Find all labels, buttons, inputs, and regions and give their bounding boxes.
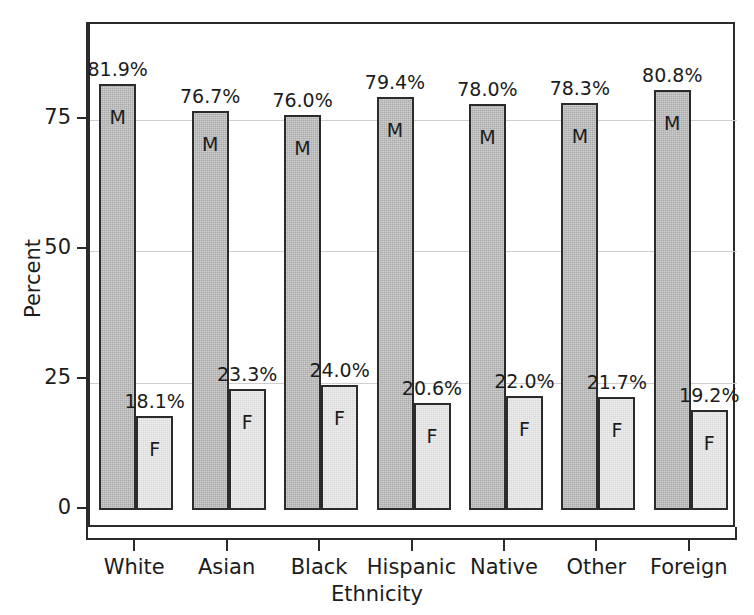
x-axis-tick-foreign <box>688 540 690 551</box>
bar-value-label-black-f: 24.0% <box>295 361 385 380</box>
bar-white-m: M <box>99 84 136 510</box>
bar-value-label-native-f: 22.0% <box>479 372 569 391</box>
x-axis-label-foreign: Foreign <box>629 555 749 579</box>
bar-black-f: F <box>321 385 358 510</box>
bar-native-m: M <box>469 104 506 510</box>
bar-series-letter: M <box>379 121 412 140</box>
bar-black-m: M <box>284 115 321 510</box>
x-axis-tick-white <box>133 540 135 551</box>
bar-value-label-black-m: 76.0% <box>258 91 348 110</box>
bar-series-letter: F <box>600 421 633 440</box>
y-axis-line <box>86 22 88 527</box>
bar-white-f: F <box>136 416 173 510</box>
bar-value-label-asian-m: 76.7% <box>165 87 255 106</box>
bar-value-label-hispanic-m: 79.4% <box>350 73 440 92</box>
y-axis-tick-label-0: 0 <box>11 497 71 518</box>
bar-series-letter: F <box>508 420 541 439</box>
x-axis-tick-black <box>318 540 320 551</box>
bar-chart: M81.9%F18.1%M76.7%F23.3%M76.0%F24.0%M79.… <box>0 0 754 615</box>
bar-series-letter: M <box>656 114 689 133</box>
plot-area: M81.9%F18.1%M76.7%F23.3%M76.0%F24.0%M79.… <box>88 22 735 527</box>
x-axis-right-cap <box>735 527 737 540</box>
gridline-75 <box>90 120 737 121</box>
x-axis-tick-hispanic <box>411 540 413 551</box>
bar-value-label-other-f: 21.7% <box>572 373 662 392</box>
bar-asian-f: F <box>229 389 266 510</box>
bar-value-label-foreign-f: 19.2% <box>664 386 754 405</box>
gridline-50 <box>90 251 737 252</box>
y-axis-title: Percent <box>23 219 44 339</box>
y-axis-tick-75 <box>77 117 86 119</box>
x-axis-tick-native <box>503 540 505 551</box>
bar-foreign-f: F <box>691 410 728 510</box>
bar-series-letter: M <box>563 127 596 146</box>
x-axis-tick-asian <box>226 540 228 551</box>
bar-series-letter: M <box>471 128 504 147</box>
bar-hispanic-m: M <box>377 97 414 510</box>
bar-series-letter: M <box>194 135 227 154</box>
bar-value-label-other-m: 78.3% <box>535 79 625 98</box>
bar-series-letter: F <box>231 413 264 432</box>
bar-series-letter: M <box>101 108 134 127</box>
x-axis-tick-other <box>595 540 597 551</box>
x-axis-left-cap <box>86 527 88 540</box>
y-axis-tick-0 <box>77 507 86 509</box>
bar-series-letter: F <box>138 440 171 459</box>
bar-value-label-asian-f: 23.3% <box>202 365 292 384</box>
x-axis-title: Ethnicity <box>0 583 754 605</box>
bar-foreign-m: M <box>654 90 691 510</box>
bar-series-letter: F <box>416 427 449 446</box>
bar-value-label-foreign-m: 80.8% <box>627 66 717 85</box>
bar-series-letter: F <box>693 434 726 453</box>
bar-other-m: M <box>561 103 598 510</box>
y-axis-tick-label-25: 25 <box>11 367 71 388</box>
bar-value-label-hispanic-f: 20.6% <box>387 379 477 398</box>
bar-value-label-white-f: 18.1% <box>110 392 200 411</box>
bar-hispanic-f: F <box>414 403 451 510</box>
y-axis-tick-25 <box>77 377 86 379</box>
bar-value-label-native-m: 78.0% <box>442 80 532 99</box>
bar-series-letter: M <box>286 139 319 158</box>
bar-native-f: F <box>506 396 543 510</box>
y-axis-tick-label-75: 75 <box>11 107 71 128</box>
y-axis-tick-50 <box>77 247 86 249</box>
bar-other-f: F <box>598 397 635 510</box>
bar-series-letter: F <box>323 409 356 428</box>
bar-asian-m: M <box>192 111 229 510</box>
